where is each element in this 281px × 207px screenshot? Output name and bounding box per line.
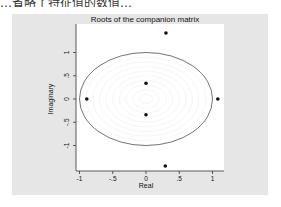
y-tick-label: 0 (63, 97, 70, 101)
root-point (144, 81, 148, 85)
root-point (144, 113, 148, 117)
root-point (164, 31, 168, 35)
plot-area (76, 24, 224, 171)
y-axis-label: Imaginary (47, 83, 55, 114)
y-tick-label: .5 (63, 73, 70, 79)
root-point (216, 97, 220, 101)
x-tick-label: -.5 (109, 175, 117, 182)
chart-title: Roots of the companion matrix (91, 15, 200, 24)
y-tick-label: -1 (63, 142, 70, 148)
root-point (163, 164, 167, 168)
x-tick-label: .5 (177, 175, 183, 182)
x-tick-label: 1 (211, 175, 215, 182)
x-tick-label: -1 (77, 175, 83, 182)
y-tick-label: 1 (63, 50, 70, 54)
x-axis-label: Real (139, 182, 154, 189)
companion-matrix-roots-chart: Roots of the companion matrix -1-.50.51-… (0, 0, 281, 207)
x-tick-label: 0 (144, 175, 148, 182)
y-tick-label: -.5 (63, 118, 70, 126)
root-point (85, 97, 89, 101)
